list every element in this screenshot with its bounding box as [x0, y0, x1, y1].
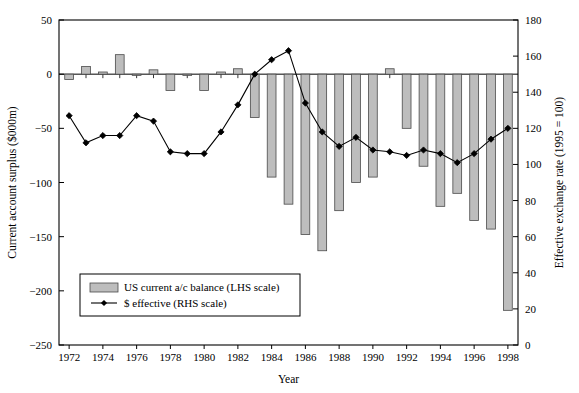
y2-axis-tick-label: 80: [525, 195, 537, 207]
chart-figure: 500−50−100−150−200−250180160140120100806…: [0, 0, 579, 393]
y-axis-title: Current account surplus ($000m): [6, 106, 19, 259]
x-axis-tick-label: 1982: [227, 351, 249, 363]
x-axis-tick-label: 1992: [396, 351, 418, 363]
bar-1975: [115, 55, 124, 75]
y-axis-tick-label: −200: [29, 285, 52, 297]
bar-1980: [200, 74, 209, 90]
bar-1994: [436, 74, 445, 206]
bar-1978: [166, 74, 175, 90]
x-axis-tick-label: 1990: [362, 351, 385, 363]
y2-axis-tick-label: 40: [525, 267, 537, 279]
x-axis-tick-label: 1994: [429, 351, 452, 363]
x-axis-tick-label: 1988: [328, 351, 351, 363]
bar-1974: [98, 72, 107, 74]
y2-axis-title: Effective exchange rate (1995 = 100): [553, 97, 566, 269]
y2-axis-tick-label: 120: [525, 122, 542, 134]
bar-1987: [318, 74, 327, 251]
y2-axis-tick-label: 180: [525, 14, 542, 26]
bar-1997: [487, 74, 496, 229]
y-axis-tick-label: −250: [29, 339, 52, 351]
bar-1973: [82, 67, 91, 75]
y2-axis-tick-label: 20: [525, 303, 537, 315]
bar-1988: [335, 74, 344, 211]
legend-label-dollar: $ effective (RHS scale): [124, 297, 227, 310]
bar-1984: [267, 74, 276, 177]
x-axis-tick-label: 1976: [126, 351, 149, 363]
x-axis-tick-label: 1972: [58, 351, 80, 363]
x-axis-tick-label: 1978: [159, 351, 182, 363]
y2-axis-tick-label: 140: [525, 86, 542, 98]
x-axis-tick-label: 1980: [193, 351, 216, 363]
y-axis-tick-label: 50: [41, 14, 53, 26]
bar-1986: [301, 74, 310, 234]
x-axis-tick-label: 1986: [294, 351, 317, 363]
x-axis-tick-label: 1998: [497, 351, 520, 363]
chart-svg: 500−50−100−150−200−250180160140120100806…: [0, 0, 579, 393]
y-axis-tick-label: −100: [29, 177, 52, 189]
bar-1972: [65, 74, 74, 79]
y2-axis-tick-label: 60: [525, 231, 537, 243]
y-axis-tick-label: −50: [35, 122, 53, 134]
bar-1992: [402, 74, 411, 128]
x-axis-tick-label: 1984: [261, 351, 284, 363]
bar-1985: [284, 74, 293, 204]
x-axis-tick-label: 1974: [92, 351, 115, 363]
y-axis-tick-label: −150: [29, 231, 52, 243]
bar-1991: [385, 69, 394, 74]
bar-1998: [503, 74, 512, 310]
legend-swatch-bar: [90, 283, 118, 292]
bar-1977: [149, 70, 158, 74]
bar-1981: [217, 72, 226, 74]
bar-1979: [183, 74, 192, 75]
bar-1989: [352, 74, 361, 182]
bar-1976: [132, 74, 141, 75]
x-axis-tick-label: 1996: [463, 351, 486, 363]
legend-label-bar: US current a/c balance (LHS scale): [124, 281, 280, 294]
bar-1996: [470, 74, 479, 220]
y-axis-tick-label: 0: [47, 68, 53, 80]
y2-axis-tick-label: 100: [525, 158, 542, 170]
y2-axis-tick-label: 0: [525, 339, 531, 351]
bar-1990: [368, 74, 377, 177]
bar-1982: [233, 69, 242, 74]
x-axis-title: Year: [278, 373, 299, 385]
bar-1995: [453, 74, 462, 193]
y2-axis-tick-label: 160: [525, 50, 542, 62]
